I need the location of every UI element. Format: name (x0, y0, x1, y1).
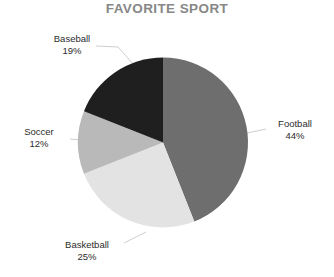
pie-label-football-name: Football (262, 118, 328, 130)
pie-chart-figure: FAVORITE SPORT Baseball 19% Football 44%… (0, 0, 334, 277)
pie-slices-group (78, 58, 248, 228)
pie-label-basketball-name: Basketball (46, 239, 128, 251)
pie-label-baseball: Baseball 19% (34, 33, 110, 57)
pie-label-soccer-name: Soccer (8, 126, 70, 138)
pie-label-football-value: 44% (262, 130, 328, 142)
pie-label-basketball: Basketball 25% (46, 239, 128, 263)
pie-label-baseball-value: 19% (34, 45, 110, 57)
pie-label-soccer-value: 12% (8, 138, 70, 150)
pie-label-soccer: Soccer 12% (8, 126, 70, 150)
pie-label-baseball-name: Baseball (34, 33, 110, 45)
pie-label-football: Football 44% (262, 118, 328, 142)
pie-label-basketball-value: 25% (46, 251, 128, 263)
